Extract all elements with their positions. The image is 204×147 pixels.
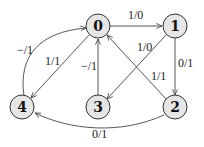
edge-label: 0/1 <box>92 127 107 141</box>
edge-1-2: 0/1 <box>175 38 193 95</box>
edge-label: 1/1 <box>151 69 166 83</box>
edge-label: 0/1 <box>178 56 193 70</box>
edge-label: −/1 <box>17 43 33 57</box>
edge-label: 1/1 <box>45 54 60 68</box>
node-4: 4 <box>10 95 34 119</box>
node-0: 0 <box>86 14 110 38</box>
node-label: 2 <box>170 99 180 115</box>
node-label: 3 <box>93 99 103 115</box>
node-3: 3 <box>86 95 110 119</box>
edge-3-0: −/1 <box>81 39 98 95</box>
node-2: 2 <box>163 95 187 119</box>
edge-label: 1/0 <box>128 8 143 22</box>
edge-label: −/1 <box>81 59 97 73</box>
edge-0-1: 1/0 <box>110 8 162 26</box>
node-1: 1 <box>163 14 187 38</box>
node-label: 0 <box>93 18 103 34</box>
graph-diagram: 1/0 1/0 0/1 1/1 −/1 1/1 −/1 0/1 0 1 2 <box>0 0 204 147</box>
node-label: 1 <box>170 18 180 34</box>
node-label: 4 <box>17 99 27 115</box>
edge-label: 1/0 <box>137 40 152 54</box>
